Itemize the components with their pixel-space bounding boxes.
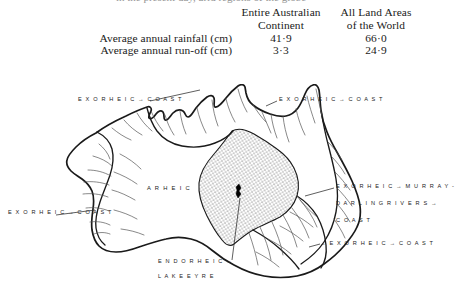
row-label-rainfall: Average annual rainfall (cm): [0, 32, 232, 45]
column-header-world-line1: All Land Areas: [341, 6, 412, 18]
row-label-runoff: Average annual run-off (cm): [0, 44, 232, 57]
map-label-darling-rivers: D A R L I N G R I V E R S →: [336, 201, 438, 207]
statistics-table-block: Entire Australian Continent All Land Are…: [0, 6, 422, 57]
map-label-arheic-interior: A R H E I C: [147, 185, 191, 191]
map-label-exorheic-northeast-coast: E X O R H E I C → C O A S T: [279, 97, 384, 103]
map-label-exorheic-northwest-coast: E X O R H E I C → C O A S T: [78, 97, 183, 103]
value-runoff-world: 24·9: [330, 44, 422, 57]
map-label-murray-coast: C O A S T: [336, 218, 371, 224]
table-corner-cell: [0, 6, 232, 32]
column-header-australia-line2: Continent: [232, 19, 330, 32]
column-header-australia-line1: Entire Australian: [241, 6, 320, 18]
statistics-table: Entire Australian Continent All Land Are…: [0, 6, 422, 57]
value-rainfall-world: 66·0: [330, 32, 422, 45]
map-label-endorheic: E N D O R H E I C →: [158, 259, 233, 265]
map-label-lake-eyre: L A K E E Y R E: [158, 274, 215, 280]
australia-drainage-map: E X O R H E I C → C O A S T E X O R H E …: [0, 84, 422, 298]
value-runoff-australia: 3·3: [232, 44, 330, 57]
table-row: Average annual run-off (cm) 3·3 24·9: [0, 44, 422, 57]
column-header-world-line2: of the World: [330, 19, 422, 32]
map-label-exorheic-murray: E X O R H E I C → M U R R A Y -: [336, 184, 455, 190]
map-label-exorheic-southeast-coast: → E X O R H E I C → C O A S T: [320, 241, 434, 247]
column-header-australia: Entire Australian Continent: [232, 6, 330, 32]
truncated-header-line: in the present day, arid regions of the …: [0, 0, 422, 3]
value-rainfall-australia: 41·9: [232, 32, 330, 45]
table-header-row: Entire Australian Continent All Land Are…: [0, 6, 422, 32]
map-svg: [0, 84, 422, 298]
map-label-exorheic-west-coast: E X O R H E I C → C O A S T: [8, 210, 113, 216]
column-header-world: All Land Areas of the World: [330, 6, 422, 32]
table-row: Average annual rainfall (cm) 41·9 66·0: [0, 32, 422, 45]
